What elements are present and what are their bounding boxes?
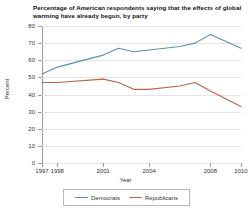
legend-label: Republicans — [145, 195, 178, 201]
chart-container: Percentage of American respondents sayin… — [0, 0, 251, 210]
x-tick-label: 2001 — [90, 168, 116, 174]
x-tick-mark — [42, 163, 43, 167]
legend-swatch-icon — [129, 197, 142, 198]
series-line-republicans — [42, 79, 241, 106]
legend-item-republicans[interactable]: Republicans — [129, 195, 178, 201]
x-tick-label: 1998 — [44, 168, 70, 174]
legend-label: Democrats — [91, 195, 120, 201]
x-tick-mark — [149, 163, 150, 167]
x-axis-title: Year — [0, 177, 251, 183]
x-tick-mark — [103, 163, 104, 167]
x-tick-label: 2008 — [197, 168, 223, 174]
legend-swatch-icon — [75, 197, 88, 198]
x-tick-mark — [57, 163, 58, 167]
x-tick-label: 2010 — [228, 168, 251, 174]
x-tick-label: 2004 — [136, 168, 162, 174]
chart-legend: DemocratsRepublicans — [63, 189, 190, 206]
series-line-democrats — [42, 35, 241, 74]
x-tick-mark — [210, 163, 211, 167]
legend-item-democrats[interactable]: Democrats — [75, 195, 120, 201]
x-tick-mark — [241, 163, 242, 167]
